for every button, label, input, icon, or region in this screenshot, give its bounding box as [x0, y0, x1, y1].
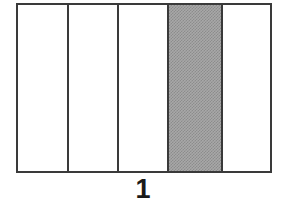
bar-cell-4	[167, 5, 221, 171]
bar-cell-1	[18, 5, 67, 171]
bar-cell-5	[221, 5, 270, 171]
partitioned-bar	[16, 3, 272, 173]
fraction-bar-figure: 1	[0, 0, 286, 204]
bar-cell-3	[117, 5, 166, 171]
bar-cell-2	[67, 5, 117, 171]
figure-caption-number: 1	[108, 176, 178, 203]
